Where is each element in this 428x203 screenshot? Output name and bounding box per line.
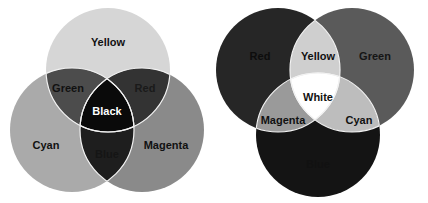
label-magenta: Magenta bbox=[144, 139, 190, 151]
label-green: Green bbox=[359, 50, 391, 62]
label-blue: Blue bbox=[306, 158, 330, 170]
label-blue: Blue bbox=[95, 148, 119, 160]
label-yellow: Yellow bbox=[91, 36, 126, 48]
label-green: Green bbox=[52, 82, 84, 94]
label-yellow: Yellow bbox=[301, 50, 336, 62]
subtractive-venn-diagram: Yellow Green Red Black Cyan Blue Magenta bbox=[10, 8, 204, 192]
label-cyan: Cyan bbox=[346, 114, 373, 126]
label-cyan: Cyan bbox=[33, 139, 60, 151]
label-red: Red bbox=[135, 82, 156, 94]
label-red: Red bbox=[250, 50, 271, 62]
additive-venn-diagram: Red Yellow Green White Magenta Cyan Blue bbox=[216, 8, 414, 197]
label-white: White bbox=[303, 91, 333, 103]
label-magenta: Magenta bbox=[261, 114, 307, 126]
label-black: Black bbox=[92, 105, 122, 117]
color-mixing-figure: Yellow Green Red Black Cyan Blue Magenta bbox=[0, 0, 428, 203]
